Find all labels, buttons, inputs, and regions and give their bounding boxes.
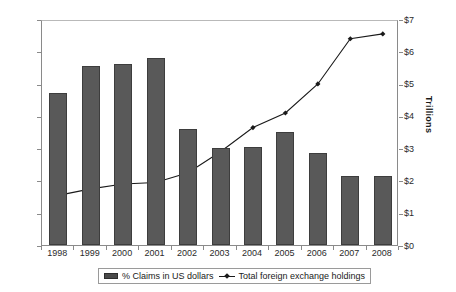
y-axis-right-tick-mark <box>399 246 403 247</box>
y-axis-right-tick-label: $2 <box>404 177 414 186</box>
y-axis-right-tick-label: $5 <box>404 80 414 89</box>
y-axis-left-tick-mark <box>37 20 41 21</box>
legend-item-percent-claims: % Claims in US dollars <box>104 272 214 281</box>
y-axis-right-tick-mark <box>399 20 403 21</box>
plot-area <box>41 20 398 246</box>
bar <box>82 66 100 245</box>
bar <box>49 93 67 245</box>
bar <box>212 148 230 245</box>
y-axis-right-tick-label: $0 <box>404 242 414 251</box>
y-axis-left-tick-mark <box>37 149 41 150</box>
y-axis-right-tick-label: $1 <box>404 209 414 218</box>
bar <box>341 176 359 245</box>
y-axis-right-tick-mark <box>399 214 403 215</box>
y-axis-right-tick-label: $7 <box>404 16 414 25</box>
bar <box>179 129 197 245</box>
y-axis-right-tick-label: $6 <box>404 48 414 57</box>
y-axis-right-tick-mark <box>399 149 403 150</box>
bar <box>114 64 132 245</box>
y-axis-left-tick-mark <box>37 181 41 182</box>
y-axis-right-title: Trillions <box>424 96 434 133</box>
y-axis-right-tick-mark <box>399 52 403 53</box>
y-axis-left-tick-mark <box>37 85 41 86</box>
bar <box>147 58 165 245</box>
bar <box>276 132 294 245</box>
y-axis-right-tick-mark <box>399 117 403 118</box>
legend-item-total-foreign-exchange-holdings: Total foreign exchange holdings <box>219 272 366 281</box>
legend-label-total-foreign-exchange-holdings: Total foreign exchange holdings <box>239 272 366 281</box>
x-axis-tick-label: 2008 <box>362 249 402 258</box>
y-axis-right-tick-mark <box>399 181 403 182</box>
legend-label-percent-claims: % Claims in US dollars <box>122 272 214 281</box>
bar <box>244 147 262 245</box>
chart-legend: % Claims in US dollars Total foreign exc… <box>98 268 371 284</box>
y-axis-left-tick-mark <box>37 52 41 53</box>
y-axis-right-tick-label: $4 <box>404 112 414 121</box>
y-axis-left-tick-mark <box>37 117 41 118</box>
y-axis-right-tick-mark <box>399 85 403 86</box>
bar <box>374 176 392 245</box>
y-axis-right-tick-label: $3 <box>404 145 414 154</box>
bar-swatch-icon <box>104 273 118 279</box>
bar <box>309 153 327 245</box>
line-marker-swatch-icon <box>219 273 235 280</box>
chart-container: 60%62%64%66%68%70%72%74% $0$1$2$3$4$5$6$… <box>0 0 456 292</box>
line-marker-diamond-icon <box>380 31 385 36</box>
y-axis-left-tick-mark <box>37 214 41 215</box>
